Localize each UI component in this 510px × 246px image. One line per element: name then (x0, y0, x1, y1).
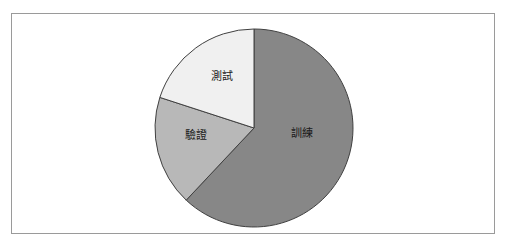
pie-chart-svg (0, 0, 510, 246)
figure-root: 訓練 驗證 測試 (0, 0, 510, 246)
pie-chart: 訓練 驗證 測試 (0, 0, 510, 246)
pie-slice-label-test: 測試 (211, 71, 234, 82)
pie-slice-label-validation: 驗證 (185, 130, 208, 141)
pie-slice-label-training: 訓練 (291, 128, 314, 139)
